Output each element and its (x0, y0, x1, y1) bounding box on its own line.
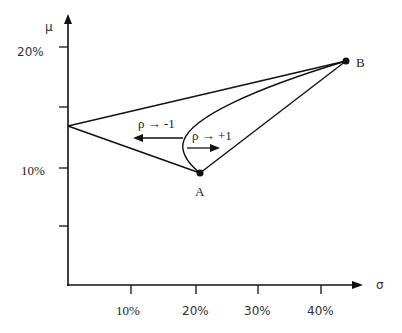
y-axis-label: μ (45, 20, 53, 34)
line-left-to-a (68, 126, 200, 173)
y-tick-label-10: 10% (21, 163, 45, 178)
chart: μ 20% 10% 10% 20% 30% 40% σ A B ρ → -1 ρ… (0, 0, 402, 333)
x-tick-label-10: 10% (116, 303, 140, 318)
left-arrow-icon (133, 134, 143, 142)
x-ticks (131, 285, 321, 294)
x-axis-label: σ (376, 278, 384, 292)
rho-plus-label: ρ → +1 (192, 128, 232, 143)
point-a (197, 170, 204, 177)
right-arrow-icon (210, 144, 220, 152)
x-tick-label-30: 30% (244, 304, 271, 318)
x-tick-label-20: 20% (182, 304, 209, 318)
x-tick-label-40: 40% (307, 304, 334, 318)
curve-a-to-b (183, 61, 346, 173)
x-axis-arrow-icon (352, 281, 363, 289)
rho-minus-label: ρ → -1 (138, 116, 175, 131)
y-ticks (59, 47, 68, 226)
point-b-label: B (356, 55, 365, 70)
point-b (343, 58, 350, 65)
y-tick-label-20: 20% (17, 45, 44, 59)
frontier-lines (68, 61, 346, 173)
y-axis-arrow-icon (64, 14, 72, 24)
point-a-label: A (195, 184, 205, 199)
